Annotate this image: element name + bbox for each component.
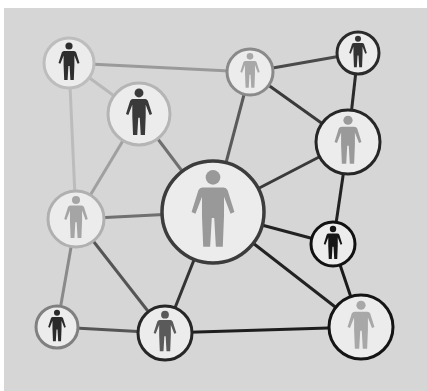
- node-n4: [337, 32, 379, 74]
- network-diagram: [0, 0, 427, 391]
- node-n10: [138, 306, 192, 360]
- node-n11: [329, 295, 393, 359]
- node-n7: [162, 161, 264, 263]
- node-n2: [108, 83, 170, 145]
- node-n1: [44, 38, 94, 88]
- node-n8: [311, 222, 355, 266]
- node-n9: [36, 306, 78, 348]
- node-n3: [227, 49, 273, 95]
- edge-n1-n3: [69, 63, 250, 72]
- node-n5: [316, 110, 380, 174]
- node-n6: [48, 191, 104, 247]
